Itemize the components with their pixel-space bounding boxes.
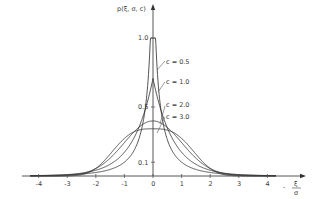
x-axis-arrow-icon [300, 174, 306, 178]
y-tick-label: 0.1 [138, 159, 148, 167]
series-label-c20: c = 2.0 [166, 101, 190, 109]
pdf-chart: -4-3-2-101234 0.10.51.0 p(ξ, σ, c) - ξ σ… [0, 0, 312, 199]
x-axis-label-numerator: ξ [294, 180, 298, 188]
x-tick-label: -3 [64, 180, 70, 188]
x-tick-label: -4 [36, 180, 42, 188]
series-label-c30: c = 3.0 [166, 113, 190, 121]
axes [22, 4, 306, 178]
x-tick-label: 1 [180, 180, 184, 188]
y-axis-label: p(ξ, σ, c) [117, 5, 146, 13]
series-labels: c = 0.5 c = 1.0 c = 2.0 c = 3.0 [157, 58, 190, 133]
x-tick-label: -2 [93, 180, 99, 188]
leader-line-c10 [158, 82, 165, 92]
y-axis-arrow-icon [151, 4, 155, 10]
x-axis-label-denominator: σ [294, 189, 298, 197]
x-tick-label: 2 [208, 180, 212, 188]
x-tick-label: 3 [237, 180, 241, 188]
series-label-c05: c = 0.5 [166, 58, 190, 66]
x-tick-label: 4 [266, 180, 270, 188]
y-tick-label: 1.0 [138, 34, 148, 42]
x-tick-label: 0 [151, 180, 155, 188]
y-tick-label: 0.5 [138, 103, 148, 111]
x-tick-label: -1 [121, 180, 127, 188]
leader-line-c05 [157, 61, 165, 70]
series-label-c10: c = 1.0 [166, 78, 190, 86]
x-axis-dash: - [283, 183, 286, 191]
